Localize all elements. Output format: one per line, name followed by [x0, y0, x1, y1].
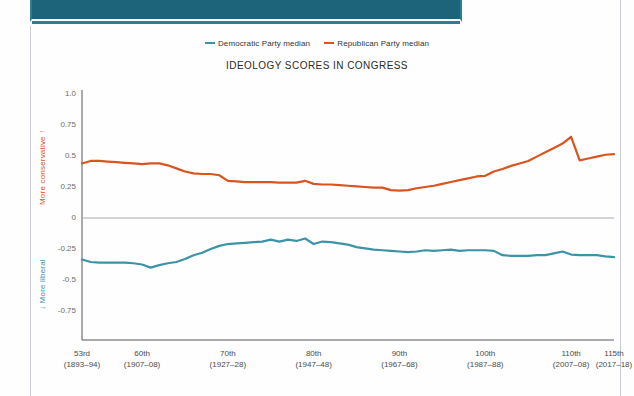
series-group	[82, 137, 614, 268]
series-line-democratic	[82, 238, 614, 267]
chart-svg	[0, 0, 634, 396]
series-line-republican	[82, 137, 614, 191]
axes-group	[82, 90, 614, 340]
plot-area	[0, 0, 634, 396]
